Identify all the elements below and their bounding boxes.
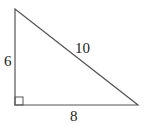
vertical-leg-label: 6 bbox=[4, 53, 12, 69]
triangle-diagram: 6 10 8 bbox=[0, 0, 146, 125]
right-angle-marker bbox=[15, 97, 23, 105]
right-triangle bbox=[15, 9, 138, 105]
horizontal-leg-label: 8 bbox=[70, 108, 78, 124]
hypotenuse-label: 10 bbox=[75, 40, 90, 56]
